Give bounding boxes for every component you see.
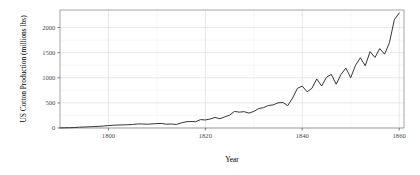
y-tick-label: 1500: [42, 49, 56, 56]
x-tick-label: 1820: [199, 132, 213, 139]
x-tick-label: 1800: [102, 132, 116, 139]
panel: [60, 10, 404, 128]
x-tick-label: 1840: [296, 132, 310, 139]
cotton-production-chart: 05001000150020001800182018401860 Year US…: [0, 0, 420, 175]
chart-svg: 05001000150020001800182018401860 Year US…: [0, 0, 420, 175]
y-tick-label: 500: [46, 99, 57, 106]
y-tick-label: 1000: [42, 74, 56, 81]
y-tick-label: 2000: [42, 24, 56, 31]
y-axis-title: US Cotton Production (millions lbs): [19, 15, 28, 123]
x-tick-label: 1860: [393, 132, 407, 139]
y-tick-label: 0: [52, 124, 56, 131]
x-axis-title: Year: [225, 155, 239, 164]
